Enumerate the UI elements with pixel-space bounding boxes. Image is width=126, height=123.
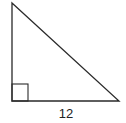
right-angle-marker [12,84,28,101]
right-triangle-diagram: 12 [0,0,126,123]
base-length-label: 12 [59,106,73,121]
